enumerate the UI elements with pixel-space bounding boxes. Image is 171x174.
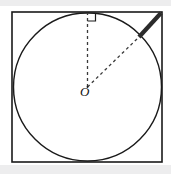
- bold-chord-segment: [139, 13, 161, 37]
- center-point-label: O: [80, 85, 89, 98]
- right-angle-marker-icon: [88, 13, 96, 21]
- bottom-edge-band: [0, 165, 171, 174]
- geometry-figure: O: [0, 0, 171, 174]
- diagonal-radius-dashed-line: [88, 36, 141, 87]
